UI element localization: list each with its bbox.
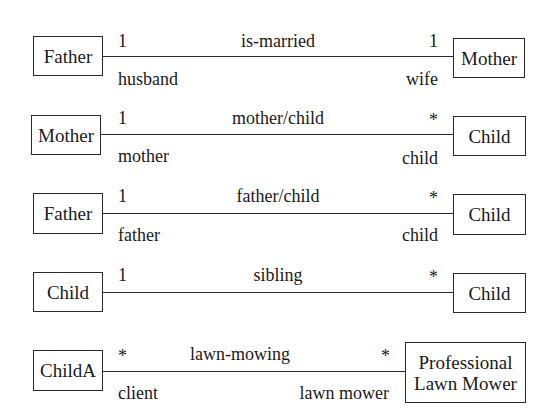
class-name-line1: Professional — [419, 352, 513, 373]
class-box-child[interactable]: Child — [33, 272, 103, 312]
class-box-child[interactable]: Child — [453, 116, 526, 156]
class-name: ChildA — [40, 360, 96, 381]
association-name: lawn-mowing — [190, 344, 290, 364]
left-multiplicity: * — [118, 346, 127, 366]
right-multiplicity: 1 — [429, 31, 438, 51]
right-multiplicity: * — [429, 267, 438, 287]
association-line — [103, 213, 453, 214]
left-multiplicity: 1 — [118, 108, 127, 128]
left-role: husband — [118, 69, 178, 89]
class-name: Child — [47, 282, 89, 303]
class-name: Child — [468, 283, 510, 304]
class-name: Mother — [38, 125, 94, 146]
association-line — [103, 292, 453, 293]
association-line — [103, 371, 405, 372]
right-role: child — [402, 148, 438, 168]
association-name: is-married — [241, 31, 315, 51]
class-box-father[interactable]: Father — [33, 193, 103, 234]
association-name: sibling — [253, 265, 302, 285]
class-name-line2: Lawn Mower — [414, 373, 517, 394]
association-line — [101, 134, 453, 135]
right-role: child — [402, 225, 438, 245]
class-box-mother[interactable]: Mother — [31, 115, 101, 155]
association-name: father/child — [237, 186, 320, 206]
right-multiplicity: * — [429, 110, 438, 130]
left-multiplicity: 1 — [118, 186, 127, 206]
class-name: Mother — [461, 48, 517, 69]
class-name: Father — [44, 203, 93, 224]
right-multiplicity: * — [429, 188, 438, 208]
right-role: lawn mower — [300, 383, 389, 403]
association-name: mother/child — [232, 108, 324, 128]
left-multiplicity: 1 — [118, 265, 127, 285]
left-role: mother — [118, 146, 169, 166]
class-name: Child — [468, 204, 510, 225]
right-role: wife — [406, 69, 438, 89]
class-name: Father — [44, 46, 93, 67]
class-name: Child — [468, 126, 510, 147]
class-box-child[interactable]: Child — [453, 194, 526, 235]
right-multiplicity: * — [381, 346, 390, 366]
association-line — [103, 56, 453, 57]
left-role: client — [118, 383, 158, 403]
left-multiplicity: 1 — [118, 31, 127, 51]
class-box-childa[interactable]: ChildA — [33, 350, 103, 391]
class-box-child[interactable]: Child — [453, 273, 526, 313]
class-box-professional-lawn-mower[interactable]: Professional Lawn Mower — [405, 342, 526, 403]
class-box-father[interactable]: Father — [33, 36, 103, 76]
class-box-mother[interactable]: Mother — [453, 38, 525, 78]
left-role: father — [118, 225, 160, 245]
